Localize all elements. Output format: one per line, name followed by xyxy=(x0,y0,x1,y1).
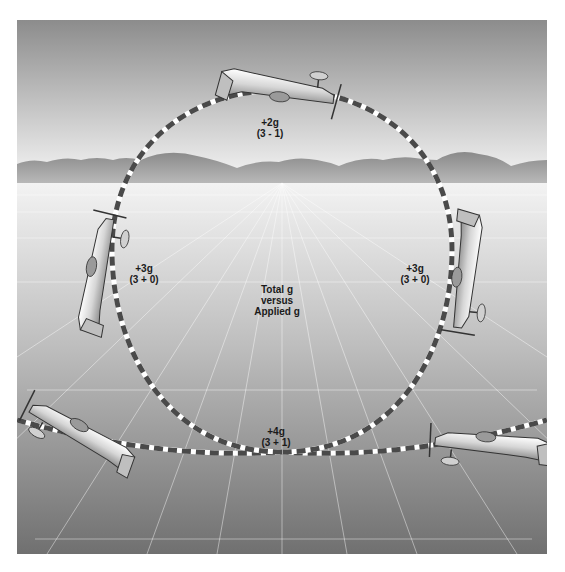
label-left: +3g (3 + 0) xyxy=(129,263,158,285)
label-right-total: +3g xyxy=(400,263,429,274)
center-title: Total g versus Applied g xyxy=(254,284,300,317)
center-title-line-1: Total g xyxy=(254,284,300,295)
label-bottom-total: +4g xyxy=(261,426,290,437)
label-left-formula: (3 + 0) xyxy=(129,274,158,285)
label-top-formula: (3 - 1) xyxy=(257,128,284,139)
label-top: +2g (3 - 1) xyxy=(257,117,284,139)
center-title-line-2: versus xyxy=(254,295,300,306)
label-right: +3g (3 + 0) xyxy=(400,263,429,285)
label-bottom-formula: (3 + 1) xyxy=(261,437,290,448)
label-left-total: +3g xyxy=(129,263,158,274)
label-bottom: +4g (3 + 1) xyxy=(261,426,290,448)
center-title-line-3: Applied g xyxy=(254,306,300,317)
label-right-formula: (3 + 0) xyxy=(400,274,429,285)
label-top-total: +2g xyxy=(257,117,284,128)
